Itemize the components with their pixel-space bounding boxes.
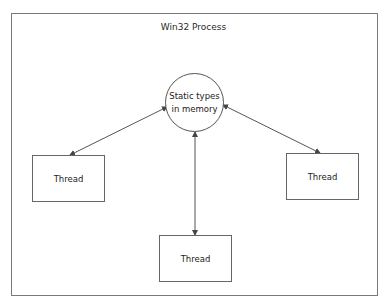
thread-box-right: Thread: [286, 153, 359, 200]
static-types-label-line2: in memory: [172, 103, 218, 116]
thread-box-left: Thread: [32, 155, 105, 202]
thread-label: Thread: [308, 172, 338, 182]
static-types-node: Static types in memory: [165, 73, 224, 132]
static-types-label-line1: Static types: [169, 90, 219, 103]
arrow-center-to-left: [70, 107, 167, 155]
thread-label: Thread: [181, 254, 211, 264]
thread-box-bottom: Thread: [159, 235, 232, 282]
arrow-center-to-right: [223, 105, 320, 153]
thread-label: Thread: [54, 174, 84, 184]
